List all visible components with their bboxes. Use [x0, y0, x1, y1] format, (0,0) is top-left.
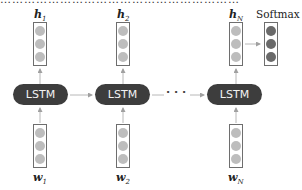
vector-unit	[118, 26, 128, 36]
output-vector-h1	[33, 22, 47, 66]
vector-unit	[35, 52, 45, 62]
vector-unit	[118, 52, 128, 62]
vector-unit	[35, 141, 45, 151]
vector-unit	[35, 128, 45, 138]
vector-unit	[231, 141, 241, 151]
input-label-wN: wN	[228, 171, 244, 186]
vector-unit	[231, 128, 241, 138]
softmax-unit	[266, 52, 276, 62]
output-vector-hN	[229, 22, 243, 66]
vector-unit	[118, 128, 128, 138]
softmax-unit	[266, 39, 276, 49]
output-label-h1: h1	[34, 8, 46, 23]
vector-unit	[118, 141, 128, 151]
output-vector-h2	[116, 22, 130, 66]
input-vector-w1	[33, 124, 47, 168]
lstm-cell-2: LSTM	[95, 84, 150, 105]
vector-unit	[231, 26, 241, 36]
input-vector-w2	[116, 124, 130, 168]
vector-unit	[231, 52, 241, 62]
vector-unit	[118, 154, 128, 164]
softmax-unit	[266, 26, 276, 36]
lstm-architecture-diagram: …………………………………………………… h1 h2 hN Softmax	[0, 0, 302, 190]
lstm-cell-1: LSTM	[13, 84, 68, 105]
input-label-w2: w2	[116, 171, 130, 186]
output-label-hN: hN	[229, 8, 243, 23]
vector-unit	[231, 39, 241, 49]
softmax-vector	[264, 22, 278, 66]
vector-unit	[35, 26, 45, 36]
vector-unit	[35, 39, 45, 49]
lstm-cell-N: LSTM	[207, 84, 262, 105]
softmax-label: Softmax	[256, 8, 300, 20]
ellipsis: · · ·	[166, 86, 186, 99]
output-label-h2: h2	[117, 8, 129, 23]
vector-unit	[118, 39, 128, 49]
vector-unit	[35, 154, 45, 164]
vector-unit	[231, 154, 241, 164]
input-vector-wN	[229, 124, 243, 168]
input-label-w1: w1	[33, 171, 47, 186]
